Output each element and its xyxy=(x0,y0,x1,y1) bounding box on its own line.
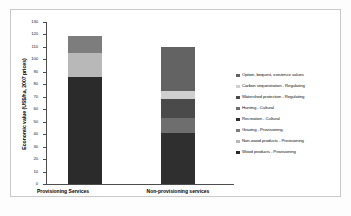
y-tick-100: 100 xyxy=(43,59,46,60)
y-tick-60: 60 xyxy=(43,109,46,110)
chart-page: Economic value (US$/ha, 2007 prices) 130… xyxy=(0,0,351,216)
y-axis-title-text: Economic value (US$/ha, 2007 prices) xyxy=(21,58,27,149)
y-tick-90: 90 xyxy=(43,72,46,73)
y-tick-50: 50 xyxy=(43,122,46,123)
bar-segment[interactable] xyxy=(161,133,195,184)
bar-segment[interactable] xyxy=(68,36,102,53)
y-tick-label-90: 90 xyxy=(34,70,38,74)
legend-item[interactable]: Non-wood products - Provisioning xyxy=(236,136,342,147)
y-tick-120: 120 xyxy=(43,34,46,35)
legend-item[interactable]: Option, bequest, existence values xyxy=(236,70,342,81)
legend-swatch-icon xyxy=(236,107,240,111)
chart-legend: Option, bequest, existence valuesCarbon … xyxy=(236,70,342,158)
bar-segment[interactable] xyxy=(161,118,195,133)
y-tick-80: 80 xyxy=(43,84,46,85)
y-tick-label-60: 60 xyxy=(34,107,38,111)
bar-segment[interactable] xyxy=(161,91,195,100)
y-tick-label-20: 20 xyxy=(34,157,38,161)
legend-item[interactable]: Recreation - Cultural xyxy=(236,114,342,125)
legend-label: Grazing - Provisioning xyxy=(242,128,283,132)
legend-swatch-icon xyxy=(236,140,240,144)
y-tick-10: 10 xyxy=(43,172,46,173)
x-axis-label-provisioning: Provisioning Services xyxy=(32,188,94,194)
y-axis-line xyxy=(46,22,47,185)
y-tick-110: 110 xyxy=(43,47,46,48)
legend-label: Hunting - Cultural xyxy=(242,106,274,110)
y-tick-label-30: 30 xyxy=(34,145,38,149)
plot-area: 1301201101009080706050403020100 Provisio… xyxy=(46,22,234,185)
legend-swatch-icon xyxy=(236,85,240,89)
bar-non-provisioning-services[interactable] xyxy=(161,47,195,184)
bar-provisioning-services[interactable] xyxy=(68,36,102,184)
y-tick-0: 0 xyxy=(43,184,46,185)
x-axis-label-non-provisioning: Non-provisioning services xyxy=(124,188,232,194)
legend-item[interactable]: Watershed protection - Regulating xyxy=(236,92,342,103)
y-tick-label-120: 120 xyxy=(31,32,38,36)
y-tick-label-10: 10 xyxy=(34,169,38,173)
legend-label: Watershed protection - Regulating xyxy=(242,95,304,99)
bar-segment[interactable] xyxy=(161,47,195,91)
y-tick-label-40: 40 xyxy=(34,132,38,136)
legend-swatch-icon xyxy=(236,74,240,78)
y-axis-title: Economic value (US$/ha, 2007 prices) xyxy=(19,22,29,185)
y-tick-label-50: 50 xyxy=(34,120,38,124)
legend-swatch-icon xyxy=(236,96,240,100)
y-tick-label-0: 0 xyxy=(36,182,38,186)
legend-item[interactable]: Hunting - Cultural xyxy=(236,103,342,114)
y-tick-label-110: 110 xyxy=(32,45,38,49)
y-tick-label-100: 100 xyxy=(31,57,38,61)
y-tick-30: 30 xyxy=(43,147,46,148)
bar-segment[interactable] xyxy=(161,99,195,118)
legend-swatch-icon xyxy=(236,129,240,133)
y-tick-label-130: 130 xyxy=(31,20,38,24)
legend-label: Non-wood products - Provisioning xyxy=(242,139,304,143)
legend-item[interactable]: Grazing - Provisioning xyxy=(236,125,342,136)
y-tick-40: 40 xyxy=(43,134,46,135)
x-axis-line xyxy=(46,184,234,185)
y-tick-130: 130 xyxy=(43,22,46,23)
legend-label: Recreation - Cultural xyxy=(242,117,280,121)
legend-swatch-icon xyxy=(236,118,240,122)
legend-item[interactable]: Wood products - Provisioning xyxy=(236,147,342,158)
y-tick-label-70: 70 xyxy=(34,95,38,99)
legend-label: Wood products - Provisioning xyxy=(242,150,296,154)
legend-item[interactable]: Carbon sequestration - Regulating xyxy=(236,81,342,92)
bar-segment[interactable] xyxy=(68,77,102,184)
legend-label: Carbon sequestration - Regulating xyxy=(242,84,305,88)
y-tick-20: 20 xyxy=(43,159,46,160)
legend-label: Option, bequest, existence values xyxy=(242,73,304,77)
y-tick-label-80: 80 xyxy=(34,82,38,86)
legend-swatch-icon xyxy=(236,151,240,155)
bar-segment[interactable] xyxy=(68,53,102,77)
y-tick-70: 70 xyxy=(43,97,46,98)
